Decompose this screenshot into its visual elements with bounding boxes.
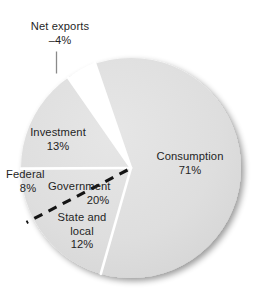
slice-label-government-name: Government: [48, 180, 134, 194]
slice-label-state-and-local-name: State and: [42, 211, 122, 225]
slice-label-consumption-value: 71%: [142, 164, 238, 178]
slice-label-investment-value: 13%: [12, 140, 104, 154]
slice-label-state-and-local-name-2: local: [42, 225, 122, 239]
slice-label-state-and-local-value: 12%: [42, 238, 122, 252]
slice-label-investment-name: Investment: [12, 126, 104, 140]
slice-label-government-value: 20%: [48, 194, 134, 208]
slice-label-state-and-local: State and local 12%: [42, 211, 122, 252]
slice-label-consumption: Consumption 71%: [142, 150, 238, 177]
slice-label-investment: Investment 13%: [12, 126, 104, 153]
slice-label-net-exports-value: –4%: [8, 34, 112, 48]
pie-chart: Net exports –4% Investment 13% Federal 8…: [0, 0, 261, 304]
slice-label-net-exports: Net exports –4%: [8, 20, 112, 47]
slice-label-government: Government 20%: [48, 180, 134, 207]
slice-label-consumption-name: Consumption: [142, 150, 238, 164]
slice-label-net-exports-name: Net exports: [8, 20, 112, 34]
